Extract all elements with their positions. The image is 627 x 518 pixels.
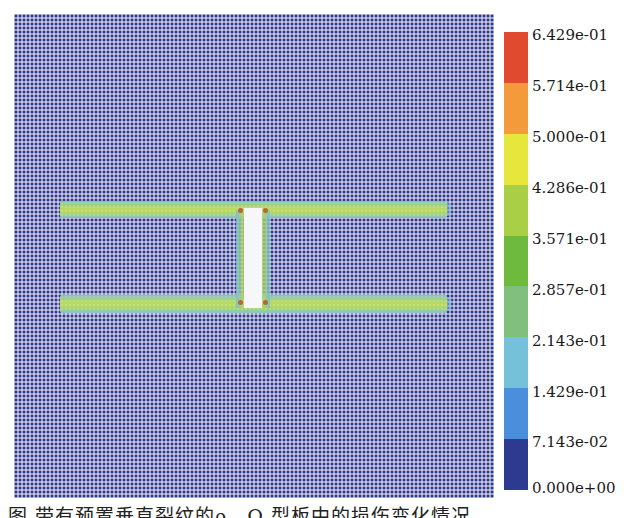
stem-corner-bottom-right xyxy=(263,300,268,305)
stem-corner-top-left xyxy=(238,208,243,213)
colorbar-tick-label: 4.286e-01 xyxy=(532,180,608,196)
colorbar xyxy=(504,32,528,490)
colorbar-segment xyxy=(504,83,528,134)
colorbar-tick-label: 5.000e-01 xyxy=(532,129,608,145)
colorbar-tick-label: 2.857e-01 xyxy=(532,282,608,298)
colorbar-tick-label: 2.143e-01 xyxy=(532,333,608,349)
colorbar-segment xyxy=(504,286,528,337)
stem-corner-bottom-left xyxy=(238,300,243,305)
colorbar-segment xyxy=(504,185,528,236)
colorbar-segment xyxy=(504,32,528,83)
colorbar-tick-label: 5.714e-01 xyxy=(532,78,608,94)
stem-corner-top-right xyxy=(263,208,268,213)
colorbar-tick-label: 6.429e-01 xyxy=(532,27,608,43)
colorbar-tick-label: 0.000e+00 xyxy=(532,480,615,496)
colorbar-tick-label: 3.571e-01 xyxy=(532,231,608,247)
colorbar-segment xyxy=(504,236,528,287)
colorbar-segment xyxy=(504,134,528,185)
colorbar-tick-label: 7.143e-02 xyxy=(532,434,608,450)
colorbar-tick-label: 1.429e-01 xyxy=(532,384,608,400)
figure: 6.429e-01 5.714e-01 5.000e-01 4.286e-01 … xyxy=(0,0,627,518)
figure-caption: 图 带有预置垂直裂纹的ρ、Ω 型板中的损伤变化情况 xyxy=(8,505,627,518)
damage-contour-plot xyxy=(14,14,494,498)
colorbar-segment xyxy=(504,337,528,388)
center-stem xyxy=(244,208,262,308)
colorbar-segment xyxy=(504,439,528,490)
colorbar-segment xyxy=(504,388,528,439)
